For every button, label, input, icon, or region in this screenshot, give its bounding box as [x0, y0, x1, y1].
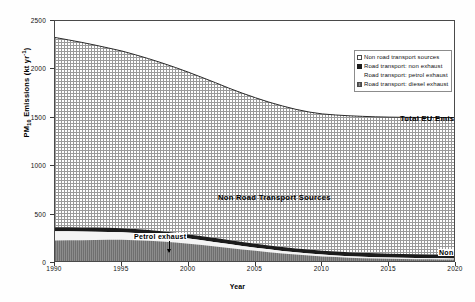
y-axis-label-text: PM	[22, 126, 31, 138]
y-axis-label-superscript: -1	[21, 50, 27, 55]
y-axis-tick-mark	[50, 20, 54, 21]
x-axis-label: Year	[0, 283, 475, 290]
x-axis-tick-mark	[255, 262, 256, 266]
legend-label: Road transport: diesel exhaust	[364, 80, 448, 89]
y-axis-tick-label: 500	[0, 210, 46, 217]
x-axis-tick-label: 2000	[168, 265, 208, 272]
legend-label: Non road transport sources	[364, 53, 439, 62]
annotation-non-road-transport: Non Road Transport Sources	[218, 193, 331, 202]
y-axis-tick-mark	[50, 165, 54, 166]
x-axis-tick-label: 2005	[235, 265, 275, 272]
annotation-petrol-exhaust: Petrol exhaust	[133, 233, 187, 240]
pm10-emissions-stacked-area-chart: Total EU Emissions Non Road Transport So…	[0, 0, 475, 302]
y-axis-tick-mark	[50, 68, 54, 69]
legend: Non road transport sources Road transpor…	[354, 50, 452, 92]
legend-item-road-transport-diesel-exhaust: Road transport: diesel exhaust	[357, 80, 448, 89]
y-axis-tick-mark	[50, 117, 54, 118]
legend-swatch-icon-diesel-exhaust	[357, 82, 362, 87]
x-axis-tick-mark	[54, 262, 55, 266]
x-axis-tick-mark	[321, 262, 322, 266]
y-axis-label-subscript: 10	[25, 119, 31, 126]
x-axis-tick-label: 2020	[435, 265, 475, 272]
x-axis-tick-mark	[121, 262, 122, 266]
legend-label: Road transport: petrol exhaust	[364, 71, 448, 80]
annotation-non-exhaust: Non exhaust	[438, 249, 455, 256]
x-axis-tick-label: 1995	[101, 265, 141, 272]
x-axis-tick-label: 2015	[368, 265, 408, 272]
y-axis-tick-mark	[50, 214, 54, 215]
legend-item-non-road-transport-sources: Non road transport sources	[357, 53, 448, 62]
legend-swatch-icon-non-road	[357, 55, 362, 60]
y-axis-label-rest: Emissions (kt yr	[22, 56, 31, 119]
annotation-total-eu-emissions: Total EU Emissions	[400, 114, 455, 123]
x-axis-tick-mark	[388, 262, 389, 266]
legend-label: Road transport: non exhaust	[364, 62, 442, 71]
x-axis-tick-mark	[188, 262, 189, 266]
x-axis-tick-label: 2010	[301, 265, 341, 272]
x-axis-tick-mark	[455, 262, 456, 266]
y-axis-label: PM10 Emissions (kt yr-1)	[22, 13, 31, 173]
x-axis-tick-label: 1990	[34, 265, 74, 272]
annotation-arrow-petrol	[169, 241, 170, 252]
legend-swatch-icon-non-exhaust	[357, 64, 362, 69]
plot-area: Total EU Emissions Non Road Transport So…	[54, 20, 455, 262]
legend-item-road-transport-non-exhaust: Road transport: non exhaust	[357, 62, 448, 71]
legend-item-road-transport-petrol-exhaust: Road transport: petrol exhaust	[357, 71, 448, 80]
legend-swatch-icon-petrol-exhaust	[357, 73, 362, 78]
